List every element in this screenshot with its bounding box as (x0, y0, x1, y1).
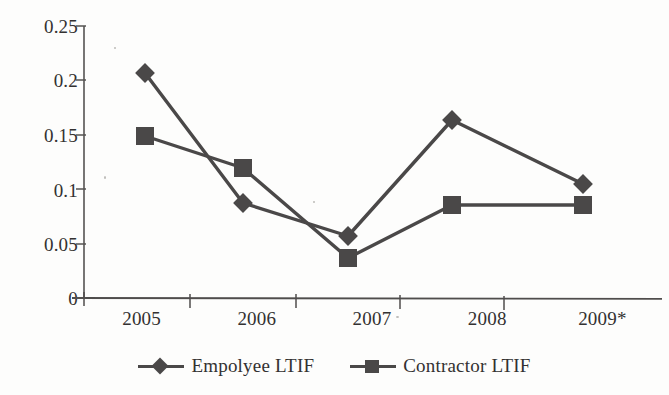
x-tick-label-2007: 2007 (314, 308, 429, 338)
x-tick-label-2006: 2006 (199, 308, 314, 338)
legend-entry-employee-ltif: Empolyee LTIF (138, 356, 314, 376)
data-point-marker (573, 174, 593, 194)
x-tick-label-2008: 2008 (430, 308, 545, 338)
data-point-marker (443, 196, 461, 214)
line-chart-figure: 0.25 0.2 0.15 0.1 0.05 0 (0, 0, 669, 395)
legend-label-contractor-ltif: Contractor LTIF (403, 356, 530, 376)
diamond-marker-icon (138, 358, 184, 374)
legend-label-employee-ltif: Empolyee LTIF (191, 356, 314, 376)
chart-legend: Empolyee LTIF Contractor LTIF (0, 350, 669, 382)
scan-speck (104, 176, 106, 179)
x-tick-label-2009: 2009* (545, 308, 660, 338)
chart-page: 0.25 0.2 0.15 0.1 0.05 0 (0, 0, 669, 395)
series-contractor-ltif-markers (136, 127, 592, 267)
data-point-marker (136, 127, 154, 145)
x-axis-line (72, 298, 662, 299)
x-tick-label-2005: 2005 (84, 308, 199, 338)
series-employee-ltif-line (145, 73, 583, 236)
scan-speck (114, 47, 116, 49)
scan-speck (313, 201, 315, 203)
data-point-marker (574, 196, 592, 214)
legend-entry-contractor-ltif: Contractor LTIF (350, 356, 530, 376)
data-point-marker (234, 159, 252, 177)
data-point-marker (339, 249, 357, 267)
square-marker-icon (350, 358, 396, 374)
scan-speck (396, 316, 399, 318)
series-contractor-ltif-line (145, 136, 583, 258)
x-axis: 2005 2006 2007 2008 2009* (84, 308, 660, 338)
